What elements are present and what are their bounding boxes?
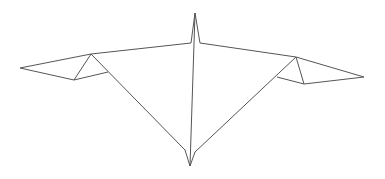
center-spine: [190, 13, 195, 166]
right-wing-fold: [195, 57, 304, 152]
top-edge-right: [200, 43, 364, 77]
top-spike: [191, 13, 200, 43]
left-wing-lower: [20, 68, 108, 80]
left-wing-fold: [74, 54, 185, 150]
top-edge-left: [20, 43, 191, 68]
diagram-canvas: [0, 0, 385, 179]
right-wing-lower: [277, 77, 364, 84]
wing-drawing: [0, 0, 385, 179]
